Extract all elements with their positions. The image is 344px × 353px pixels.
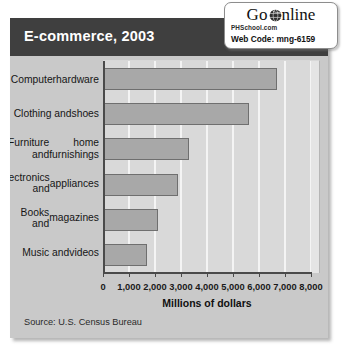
- bar: [103, 244, 147, 266]
- bar-row: [103, 209, 311, 231]
- x-axis: [103, 272, 319, 282]
- bar-row: [103, 103, 311, 125]
- x-axis-tick-label: 2,000: [143, 282, 166, 292]
- value-axis-line: [103, 61, 105, 273]
- page-title: E-commerce, 2003: [24, 28, 155, 44]
- category-axis-labels: ComputerhardwareClothing andshoesFurnitu…: [10, 62, 103, 270]
- plot-area: [103, 61, 311, 273]
- bar-series: [103, 61, 311, 273]
- x-axis-tick-label: 4,000: [195, 282, 218, 292]
- badge-online-text: nline: [281, 6, 315, 23]
- category-label: Computerhardware: [10, 62, 103, 97]
- plot-area-wrapper: [103, 60, 320, 273]
- category-label: Books andmagazines: [10, 201, 103, 236]
- bar: [103, 138, 189, 160]
- x-axis-tick: [311, 272, 312, 277]
- bar: [103, 174, 178, 196]
- category-label: Electronics andappliances: [10, 166, 103, 201]
- x-axis-title: Millions of dollars: [103, 297, 311, 309]
- category-label: Furniture andhome furnishings: [10, 131, 103, 166]
- go-online-badge[interactable]: Go nline PHSchool.com Web Code: mng-6159: [224, 2, 338, 49]
- badge-site-label: PHSchool.com: [231, 24, 277, 31]
- x-axis-tick-label: 8,000: [299, 282, 322, 292]
- x-axis-tick-label: 0: [100, 282, 105, 292]
- bar: [103, 103, 249, 125]
- bar: [103, 209, 158, 231]
- category-label: Clothing andshoes: [10, 97, 103, 132]
- x-axis-tick-labels: 01,0002,0003,0004,0005,0006,0007,0008,00…: [103, 282, 319, 295]
- bar-row: [103, 68, 311, 90]
- x-axis-tick-label: 3,000: [169, 282, 192, 292]
- x-axis-tick-label: 5,000: [221, 282, 244, 292]
- badge-web-code: Web Code: mng-6159: [231, 34, 315, 44]
- badge-go-text: Go: [247, 6, 268, 23]
- source-note: Source: U.S. Census Bureau: [24, 317, 142, 327]
- x-axis-tick-label: 1,000: [117, 282, 140, 292]
- x-axis-tick-label: 6,000: [247, 282, 270, 292]
- category-label: Music andvideos: [10, 235, 103, 270]
- bar-row: [103, 174, 311, 196]
- bar-row: [103, 138, 311, 160]
- bar-row: [103, 244, 311, 266]
- x-axis-tick-label: 7,000: [273, 282, 296, 292]
- chart-figure: E-commerce, 2003 ComputerhardwareClothin…: [10, 18, 328, 338]
- bar: [103, 68, 277, 90]
- badge-headline: Go nline: [225, 4, 337, 24]
- chart-panel-body: ComputerhardwareClothing andshoesFurnitu…: [10, 56, 328, 338]
